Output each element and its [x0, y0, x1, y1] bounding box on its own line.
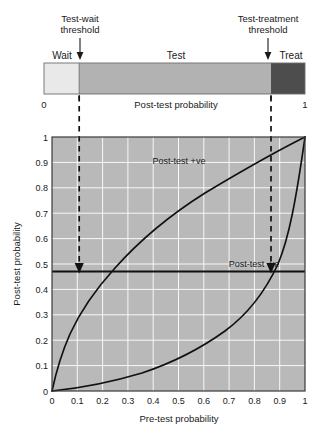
y-axis-title: Post-test probability — [11, 222, 22, 306]
ytick-label-0.3: 0.3 — [35, 310, 48, 320]
test-wait-threshold-arrow-head — [77, 52, 84, 60]
xtick-label-0: 0 — [49, 396, 54, 406]
threshold-bar-panel: Test-wait threshold Test-treatment thres… — [41, 13, 307, 110]
bar-axis-min-label: 0 — [41, 99, 46, 110]
bar-axis-max-label: 1 — [302, 99, 307, 110]
test-wait-threshold-line2: threshold — [60, 24, 99, 35]
ytick-label-0.6: 0.6 — [35, 234, 48, 244]
xtick-label-0.8: 0.8 — [248, 396, 261, 406]
annotation-post-test-negative: Post-test -ve — [229, 259, 280, 269]
xtick-label-0.2: 0.2 — [96, 396, 109, 406]
bar-segment-test — [79, 63, 271, 94]
xtick-label-0.9: 0.9 — [273, 396, 286, 406]
ytick-label-0.4: 0.4 — [35, 285, 48, 295]
xtick-label-0.3: 0.3 — [122, 396, 135, 406]
xtick-label-0.4: 0.4 — [147, 396, 160, 406]
figure-svg: Test-wait threshold Test-treatment thres… — [0, 0, 333, 443]
y-axis: 1 0.9 0.8 0.7 0.6 0.5 0.4 0.3 0.2 0.1 0 … — [11, 133, 48, 397]
xtick-label-0.1: 0.1 — [71, 396, 84, 406]
xtick-label-0.5: 0.5 — [172, 396, 185, 406]
bar-segment-wait — [44, 63, 79, 94]
x-axis-title: Pre-test probability — [139, 413, 218, 424]
xtick-label-0.7: 0.7 — [223, 396, 236, 406]
bar-segment-treat — [271, 63, 305, 94]
bar-segment-label-wait: Wait — [52, 50, 72, 61]
test-treatment-threshold-arrow-head — [265, 52, 272, 60]
xtick-label-0.6: 0.6 — [198, 396, 211, 406]
annotation-post-test-positive: Post-test +ve — [153, 156, 206, 166]
xtick-label-1: 1 — [302, 396, 307, 406]
ytick-label-0.9: 0.9 — [35, 158, 48, 168]
chart-panel: Post-test +ve Post-test -ve 1 0.9 0.8 0.… — [11, 96, 308, 424]
ytick-label-0.5: 0.5 — [35, 260, 48, 270]
bar-segment-label-treat: Treat — [280, 50, 303, 61]
bar-segment-label-test: Test — [167, 50, 186, 61]
test-treatment-threshold-line1: Test-treatment — [238, 13, 299, 24]
ytick-label-0: 0 — [43, 387, 48, 397]
test-treatment-threshold-line2: threshold — [248, 24, 287, 35]
ytick-label-1: 1 — [43, 133, 48, 143]
ytick-label-0.7: 0.7 — [35, 209, 48, 219]
figure-root: Test-wait threshold Test-treatment thres… — [0, 0, 333, 443]
test-wait-threshold-line1: Test-wait — [61, 13, 99, 24]
bar-axis-title: Post-test probability — [134, 99, 218, 110]
x-axis: 0 0.1 0.2 0.3 0.4 0.5 0.6 0.7 0.8 0.9 1 … — [49, 396, 307, 424]
ytick-label-0.2: 0.2 — [35, 336, 48, 346]
ytick-label-0.8: 0.8 — [35, 183, 48, 193]
ytick-label-0.1: 0.1 — [35, 361, 48, 371]
